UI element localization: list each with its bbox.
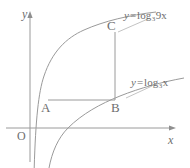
equation-label-lower: y=log3x (131, 77, 168, 90)
log-curves-figure: y x O A B C y=log39x y=log3x (0, 0, 190, 168)
y-axis-label: y (22, 8, 27, 20)
point-label-c: C (107, 19, 116, 32)
origin-label: O (17, 130, 26, 142)
y-axis (27, 11, 32, 162)
x-axis-label: x (168, 134, 173, 146)
equation-lower-argument: x (163, 76, 169, 88)
equation-label-upper: y=log39x (124, 10, 167, 23)
equation-lower-operator: = (136, 76, 144, 88)
equation-upper-function: log (137, 9, 151, 21)
equation-lower-function: log (144, 76, 158, 88)
point-label-a: A (41, 101, 50, 114)
x-axis (6, 125, 176, 130)
equation-upper-operator: = (129, 9, 137, 21)
curve-lower (49, 78, 184, 168)
point-label-b: B (111, 101, 120, 114)
equation-upper-argument: 9x (156, 9, 167, 21)
